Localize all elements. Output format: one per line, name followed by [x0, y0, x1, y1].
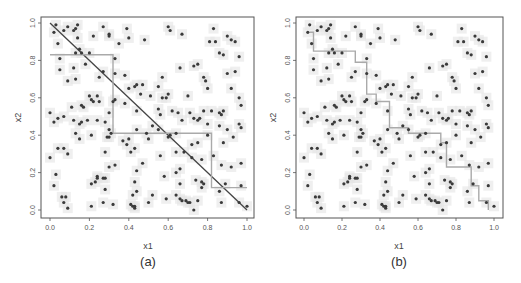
y-tick-label: 0.6: [29, 93, 36, 103]
x-tick-label: 0.6: [413, 224, 423, 231]
x-axis-label: x1: [143, 241, 153, 251]
x-tick-label: 1.0: [242, 224, 252, 231]
y-tick-label: 0.4: [29, 130, 36, 140]
point-halos: [299, 20, 499, 215]
x-axis-label: x1: [394, 241, 404, 251]
y-tick-label: 0.4: [284, 130, 291, 140]
x-tick-label: 1.0: [489, 224, 499, 231]
panel-caption: (a): [140, 254, 156, 269]
x-tick-label: 0.8: [451, 224, 461, 231]
panel-b: 0.00.20.40.60.81.00.00.20.40.60.81.0x1x2…: [268, 17, 503, 269]
y-tick-label: 1.0: [29, 18, 36, 28]
y-tick-label: 0.6: [284, 93, 291, 103]
x-tick-label: 0.4: [124, 224, 134, 231]
x-tick-label: 0.2: [85, 224, 95, 231]
y-tick-label: 0.2: [29, 168, 36, 178]
x-tick-label: 0.0: [299, 224, 309, 231]
y-tick-label: 0.0: [29, 205, 36, 215]
y-tick-label: 0.8: [284, 55, 291, 65]
x-tick-label: 0.8: [203, 224, 213, 231]
y-tick-label: 0.0: [284, 205, 291, 215]
panel-a: 0.00.20.40.60.81.00.00.20.40.60.81.0x1x2…: [13, 17, 254, 269]
x-tick-label: 0.4: [375, 224, 385, 231]
x-tick-label: 0.2: [337, 224, 347, 231]
panel-caption: (b): [391, 254, 407, 269]
figure: 0.00.20.40.60.81.00.00.20.40.60.81.0x1x2…: [0, 0, 521, 283]
x-tick-label: 0.6: [163, 224, 173, 231]
x-tick-label: 0.0: [45, 224, 55, 231]
y-axis-label: x2: [13, 113, 23, 123]
y-tick-label: 0.2: [284, 168, 291, 178]
y-tick-label: 0.8: [29, 55, 36, 65]
y-axis-label: x2: [268, 113, 278, 123]
y-tick-label: 1.0: [284, 18, 291, 28]
